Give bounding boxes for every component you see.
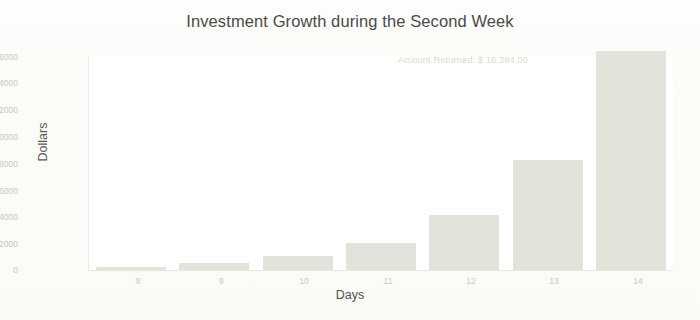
y-axis-tick-0: 0 bbox=[0, 265, 18, 275]
x-axis-tick-8: 8 bbox=[108, 276, 168, 286]
bar-slot-day-11 bbox=[339, 56, 422, 270]
x-axis-tick-9: 9 bbox=[191, 276, 251, 286]
bar-slot-day-10 bbox=[256, 56, 339, 270]
bar-slot-day-9 bbox=[172, 56, 255, 270]
bar-day-12[interactable] bbox=[429, 215, 499, 270]
y-axis-tick-8000: 8000 bbox=[0, 159, 18, 169]
bar-day-14[interactable] bbox=[596, 51, 666, 270]
bar-day-11[interactable] bbox=[346, 243, 416, 270]
amount-returned-annotation: Amount Returned: $ 16,384.00 bbox=[398, 54, 528, 65]
bar-day-8[interactable] bbox=[96, 267, 166, 270]
y-axis-tick-2000: 2000 bbox=[0, 239, 18, 249]
x-axis-tick-10: 10 bbox=[274, 276, 334, 286]
x-axis-tick-11: 11 bbox=[358, 276, 418, 286]
chart-figure: Investment Growth during the Second Week… bbox=[0, 0, 700, 320]
chart-title: Investment Growth during the Second Week bbox=[0, 12, 700, 31]
x-axis-tick-13: 13 bbox=[524, 276, 584, 286]
bar-day-10[interactable] bbox=[263, 256, 333, 270]
y-axis-tick-4000: 4000 bbox=[0, 212, 18, 222]
x-axis-tick-12: 12 bbox=[441, 276, 501, 286]
bar-day-13[interactable] bbox=[513, 160, 583, 270]
y-axis-tick-10000: 10000 bbox=[0, 132, 18, 142]
x-axis-tick-14: 14 bbox=[608, 276, 668, 286]
y-axis-tick-14000: 14000 bbox=[0, 78, 18, 88]
x-axis-label: Days bbox=[0, 288, 700, 302]
y-axis-tick-16000: 16000 bbox=[0, 52, 18, 62]
plot-area bbox=[88, 56, 673, 271]
bar-slot-day-12 bbox=[423, 56, 506, 270]
y-axis-label: Dollars bbox=[36, 97, 50, 187]
bar-slot-day-8 bbox=[89, 56, 172, 270]
bar-day-9[interactable] bbox=[179, 263, 249, 270]
bar-slot-day-14 bbox=[590, 56, 673, 270]
bar-slot-day-13 bbox=[506, 56, 589, 270]
y-axis-tick-12000: 12000 bbox=[0, 105, 18, 115]
bar-series bbox=[89, 56, 673, 270]
y-axis-tick-6000: 6000 bbox=[0, 186, 18, 196]
